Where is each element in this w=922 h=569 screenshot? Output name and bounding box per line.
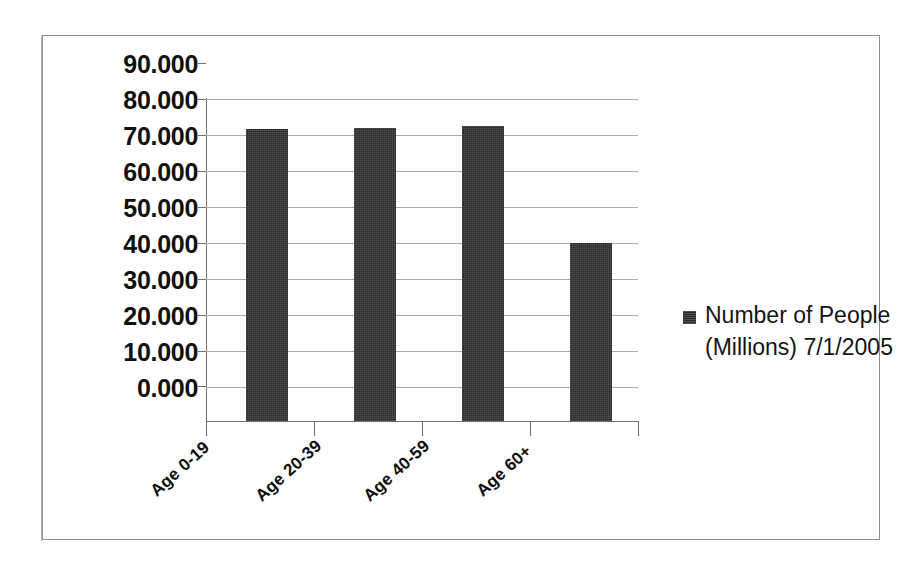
chart-screenshot: 90.000 80.000 70.000 60.000 50.000 40.00…: [0, 0, 922, 569]
y-tick-label-10: 10.000: [48, 338, 198, 367]
y-axis-tick-40: [198, 243, 206, 244]
x-axis-tick-3: [530, 421, 531, 436]
legend-label-line-1: Number of People: [705, 302, 890, 329]
y-tick-label-0: 0.000: [48, 374, 198, 403]
y-tick-label-60: 60.000: [48, 158, 198, 187]
x-axis-ticks: [206, 421, 640, 437]
y-axis-tick-50: [198, 207, 206, 208]
y-tick-label-40: 40.000: [48, 230, 198, 259]
x-axis-tick-4: [638, 421, 639, 436]
y-axis-tick-60: [198, 171, 206, 172]
y-tick-label-80: 80.000: [48, 86, 198, 115]
y-axis-tick-80: [198, 99, 206, 100]
y-axis-tick-30: [198, 279, 206, 280]
x-category-label-age-40-59: Age 40-59: [360, 436, 434, 506]
y-axis-tick-0: [198, 386, 206, 387]
bar-age-20-39: [354, 128, 396, 421]
x-axis-tick-1: [314, 421, 315, 436]
y-axis-tick-90: [198, 63, 206, 64]
x-category-label-age-20-39: Age 20-39: [252, 436, 326, 506]
gridline-90: [206, 99, 638, 100]
legend-square-icon: [683, 311, 696, 324]
bar-age-40-59: [462, 126, 504, 421]
bar-age-60-plus: [570, 243, 612, 422]
plot-area: [206, 99, 638, 421]
y-axis-tick-10: [198, 351, 206, 352]
bar-age-0-19: [246, 129, 288, 421]
legend-label-line-2: (Millions) 7/1/2005: [705, 334, 893, 361]
x-axis-tick-2: [422, 421, 423, 436]
y-tick-label-70: 70.000: [48, 122, 198, 151]
y-tick-label-50: 50.000: [48, 194, 198, 223]
y-tick-label-90: 90.000: [48, 50, 198, 79]
y-tick-label-20: 20.000: [48, 302, 198, 331]
x-category-label-age-60-plus: Age 60+: [473, 441, 536, 501]
y-axis-tick-20: [198, 315, 206, 316]
y-tick-label-30: 30.000: [48, 266, 198, 295]
y-axis-tick-70: [198, 135, 206, 136]
x-axis-tick-0: [206, 421, 207, 436]
chart-frame: 90.000 80.000 70.000 60.000 50.000 40.00…: [42, 35, 880, 540]
